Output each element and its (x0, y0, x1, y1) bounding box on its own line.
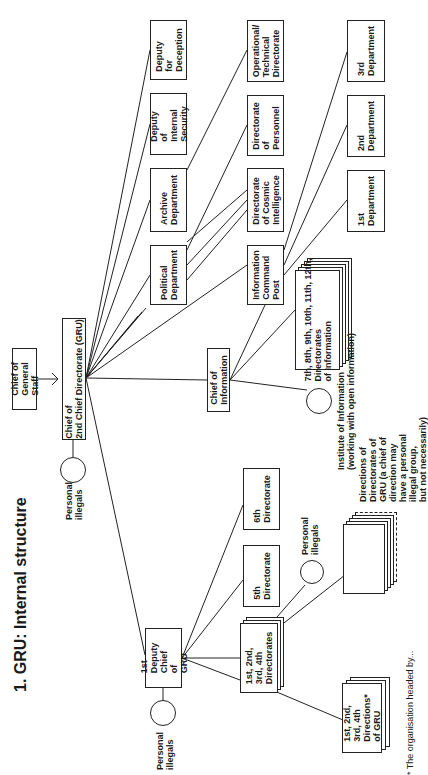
chart-title: 1. GRU: Internal structure (12, 497, 30, 692)
chief-general-staff-box: Chief of General Staff (12, 348, 37, 410)
directions-directorates-stack (343, 512, 398, 594)
directorate-6-label: 6th Directorate (252, 475, 272, 523)
directions-directorates-label: Directions of Directorates of GRU (a chi… (358, 417, 428, 502)
first-deputy-box: 1st Deputy Chief of GRU (145, 628, 182, 688)
chief-information-box: Chief of Information (207, 348, 230, 412)
dept-3-box: 3rd Department (347, 20, 385, 82)
chief-gru-box: Chief of 2nd Chief Directorate (GRU) (62, 318, 86, 440)
chief-gru-label: Chief of 2nd Chief Directorate (GRU) (64, 319, 84, 439)
personal-illegals-left-label: Personal illegals (155, 732, 175, 770)
political-department-label: Political Department (159, 250, 179, 300)
deputy-deception-box: Deputy for Deception (150, 20, 187, 80)
deputy-deception-label: Deputy for Deception (154, 28, 184, 72)
personal-illegals-mid-circle (300, 560, 324, 584)
deputy-internal-security-box: Deputy of Internal Security (150, 93, 187, 155)
directorates-1234-label: 1st, 2nd, 3rd, 4th Directorates (244, 632, 274, 685)
institute-information-circle (306, 388, 332, 414)
directorate-6-box: 6th Directorate (243, 468, 280, 530)
first-deputy-label: 1st Deputy Chief of GRU (139, 643, 189, 674)
information-command-post-label: Information Command Post (251, 250, 281, 300)
footnote: * The organisation headed by... (405, 651, 415, 775)
institute-information-label: Institute of Information (working with o… (336, 333, 356, 470)
personal-illegals-top-circle (60, 457, 86, 483)
personal-illegals-mid-label: Personal illegals (300, 517, 320, 555)
chief-general-staff-label: Chief of General Staff (10, 362, 40, 396)
personal-illegals-left-circle (150, 700, 176, 726)
directorate-cosmic-box: Directorate of Cosmic Intelligence (247, 168, 284, 232)
directorate-5-label: 5th Directorate (252, 552, 272, 600)
information-command-post-box: Information Command Post (247, 245, 284, 305)
dept-1-label: 1st Department (356, 176, 376, 226)
directorates-information-label: 7th, 8th, 9th, 10th, 11th, 12th, Directo… (303, 258, 333, 381)
directions-1234-stack: 1st, 2nd, 3rd, 4th Directions* of GRU (342, 677, 392, 755)
dept-1-box: 1st Department (347, 170, 385, 232)
archive-department-box: Archive Department (150, 168, 187, 232)
operational-technical-label: Operational/ Technical Directorate (251, 25, 281, 78)
directorate-personnel-box: Directorate of Personnel (247, 95, 284, 156)
chief-information-label: Chief of Information (209, 355, 229, 405)
political-department-box: Political Department (150, 245, 187, 305)
directorates-1234-stack: 1st, 2nd, 3rd, 4th Directorates (240, 617, 284, 693)
dept-3-label: 3rd Department (356, 26, 376, 76)
directorate-personnel-label: Directorate of Personnel (251, 102, 281, 150)
operational-technical-box: Operational/ Technical Directorate (247, 20, 284, 82)
directorate-5-box: 5th Directorate (243, 545, 280, 607)
directorate-cosmic-label: Directorate of Cosmic Intelligence (251, 175, 281, 225)
deputy-internal-security-label: Deputy of Internal Security (149, 106, 189, 142)
personal-illegals-top-label: Personal illegals (64, 482, 84, 520)
dept-2-label: 2nd Department (356, 101, 376, 151)
directions-1234-label: 1st, 2nd, 3rd, 4th Directions* of GRU (342, 694, 382, 742)
dept-2-box: 2nd Department (347, 95, 385, 157)
archive-department-label: Archive Department (159, 175, 179, 225)
